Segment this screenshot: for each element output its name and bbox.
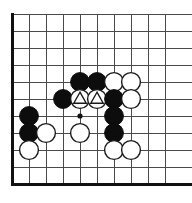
- white-stone[interactable]: [20, 141, 39, 160]
- white-stone[interactable]: [122, 73, 141, 92]
- white-stone[interactable]: [105, 141, 124, 160]
- stone-disc-white: [105, 141, 124, 160]
- go-board-diagram: [0, 0, 192, 203]
- stone-disc-black: [20, 124, 39, 143]
- black-stone[interactable]: [54, 90, 73, 109]
- stone-disc-black: [105, 124, 124, 143]
- stone-disc-white: [105, 73, 124, 92]
- go-board-canvas: [0, 0, 192, 203]
- black-stone[interactable]: [20, 124, 39, 143]
- white-stone[interactable]: [105, 73, 124, 92]
- star-points: [77, 113, 82, 118]
- stone-disc-white: [71, 124, 90, 143]
- white-stone[interactable]: [122, 141, 141, 160]
- stone-disc-white: [20, 141, 39, 160]
- black-stone[interactable]: [71, 73, 90, 92]
- stone-disc-black: [54, 90, 73, 109]
- white-stone[interactable]: [71, 124, 90, 143]
- stone-disc-white: [122, 141, 141, 160]
- white-stone[interactable]: [122, 90, 141, 109]
- white-stone[interactable]: [71, 90, 90, 109]
- stone-disc-black: [20, 107, 39, 126]
- black-stone[interactable]: [105, 107, 124, 126]
- black-stone[interactable]: [105, 124, 124, 143]
- black-stone[interactable]: [105, 90, 124, 109]
- star-point: [77, 113, 82, 118]
- stone-disc-black: [105, 107, 124, 126]
- black-stone[interactable]: [20, 107, 39, 126]
- stone-disc-black: [71, 73, 90, 92]
- stone-disc-white: [122, 90, 141, 109]
- stone-disc-white: [122, 73, 141, 92]
- stone-disc-black: [105, 90, 124, 109]
- black-stone[interactable]: [88, 73, 107, 92]
- stone-disc-black: [88, 73, 107, 92]
- stone-disc-white: [37, 124, 56, 143]
- white-stone[interactable]: [37, 124, 56, 143]
- white-stone[interactable]: [88, 90, 107, 109]
